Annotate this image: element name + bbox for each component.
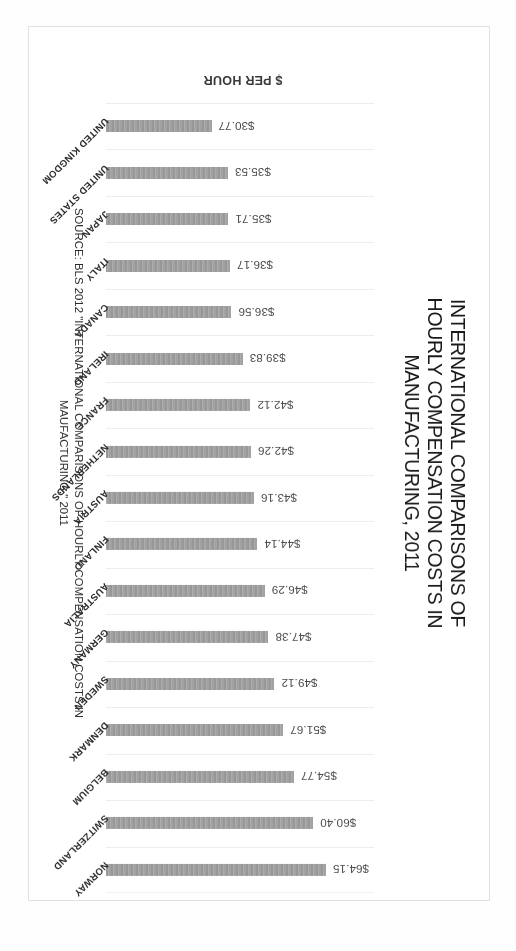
x-axis-label: $ PER HOUR	[148, 73, 338, 87]
bar[interactable]	[106, 213, 228, 225]
bar-value-label: $39.83	[250, 352, 286, 365]
bar[interactable]	[106, 817, 313, 829]
bar[interactable]	[106, 353, 243, 365]
bar-container: $43.16	[106, 475, 378, 521]
bar-value-label: $51.67	[290, 724, 326, 737]
bar-value-label: $35.53	[235, 166, 271, 179]
bar-value-label: $54.77	[301, 770, 337, 783]
bar-rows: $64.15$60.40$54.77$51.67$49.12$47.38$46.…	[106, 103, 378, 893]
chart-title-line-1: INTERNATIONAL COMPARISONS OF	[446, 94, 469, 834]
bar[interactable]	[106, 120, 212, 132]
bar[interactable]	[106, 260, 230, 272]
bar-value-label: $30.77	[219, 120, 255, 133]
bar[interactable]	[106, 446, 251, 458]
category-axis-labels: NORWAYSWITZERLANDBELGIUMDENMARKSWEDENGER…	[28, 31, 106, 893]
scanned-page: INTERNATIONAL COMPARISONS OF HOURLY COMP…	[0, 0, 516, 951]
bar-value-label: $35.71	[235, 213, 271, 226]
bar[interactable]	[106, 724, 283, 736]
bar-container: $36.56	[106, 289, 378, 335]
bar-row: $44.14	[106, 521, 378, 567]
bar[interactable]	[106, 585, 265, 597]
bar-row: $43.16	[106, 475, 378, 521]
bar-row: $64.15	[106, 847, 378, 893]
bar-container: $35.53	[106, 149, 378, 195]
bar[interactable]	[106, 631, 268, 643]
bar[interactable]	[106, 864, 326, 876]
bar-value-label: $42.26	[258, 445, 294, 458]
bar-row: $47.38	[106, 614, 378, 660]
bar-value-label: $44.14	[264, 538, 300, 551]
bar-value-label: $36.17	[237, 259, 273, 272]
bar-container: $60.40	[106, 800, 378, 846]
bar[interactable]	[106, 167, 228, 179]
bar[interactable]	[106, 492, 254, 504]
bar-row: $39.83	[106, 335, 378, 381]
bar-row: $36.17	[106, 242, 378, 288]
plot-area: $64.15$60.40$54.77$51.67$49.12$47.38$46.…	[106, 31, 378, 893]
bar-row: $54.77	[106, 754, 378, 800]
bar-row: $30.77	[106, 103, 378, 149]
bar[interactable]	[106, 678, 274, 690]
bar-container: $46.29	[106, 568, 378, 614]
bar-row: $51.67	[106, 707, 378, 753]
chart-title: INTERNATIONAL COMPARISONS OF HOURLY COMP…	[380, 26, 490, 901]
bar-container: $39.83	[106, 335, 378, 381]
bar-row: $42.26	[106, 428, 378, 474]
bar-container: $51.67	[106, 707, 378, 753]
bar-value-label: $36.56	[238, 306, 274, 319]
bar-value-label: $60.40	[320, 817, 356, 830]
bar-value-label: $47.38	[275, 631, 311, 644]
bar[interactable]	[106, 538, 257, 550]
bar-container: $47.38	[106, 614, 378, 660]
chart-title-line-3: MANUFACTURING, 2011	[401, 94, 424, 834]
rotated-chart-container: INTERNATIONAL COMPARISONS OF HOURLY COMP…	[28, 26, 490, 901]
bar-row: $60.40	[106, 800, 378, 846]
bar-value-label: $43.16	[261, 492, 297, 505]
bar-container: $64.15	[106, 847, 378, 893]
bar-container: $42.12	[106, 382, 378, 428]
gridline-top	[106, 892, 374, 893]
bar-row: $42.12	[106, 382, 378, 428]
bar-row: $46.29	[106, 568, 378, 614]
bar-row: $36.56	[106, 289, 378, 335]
bar[interactable]	[106, 306, 231, 318]
bar-value-label: $49.12	[281, 677, 317, 690]
bar-value-label: $42.12	[257, 399, 293, 412]
bar[interactable]	[106, 771, 294, 783]
bar-container: $36.17	[106, 242, 378, 288]
bar-container: $35.71	[106, 196, 378, 242]
bar-container: $44.14	[106, 521, 378, 567]
bar-container: $49.12	[106, 661, 378, 707]
bar-row: $35.53	[106, 149, 378, 195]
bar-row: $49.12	[106, 661, 378, 707]
bar-container: $42.26	[106, 428, 378, 474]
bar-row: $35.71	[106, 196, 378, 242]
bar-container: $30.77	[106, 103, 378, 149]
chart-title-line-2: HOURLY COMPENSATION COSTS IN	[424, 94, 447, 834]
bar-container: $54.77	[106, 754, 378, 800]
bar[interactable]	[106, 399, 250, 411]
bar-value-label: $64.15	[333, 863, 369, 876]
bar-value-label: $46.29	[272, 584, 308, 597]
